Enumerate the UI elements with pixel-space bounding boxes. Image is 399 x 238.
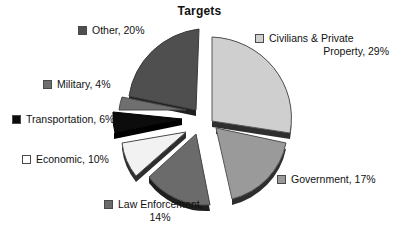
legend-swatch-law-enforcement xyxy=(104,200,113,209)
slice-government[interactable] xyxy=(216,128,286,199)
legend-text-law-line1: Law Enforcement, xyxy=(118,198,203,210)
legend-swatch-government xyxy=(277,175,286,184)
legend-label-law-enforcement[interactable]: Law Enforcement, 14% xyxy=(104,198,224,223)
chart-page: Targets xyxy=(0,0,399,238)
legend-swatch-other xyxy=(78,26,87,35)
legend-text-transportation: Transportation, 6% xyxy=(26,113,114,125)
legend-text-civilians-line2: Property, 29% xyxy=(255,45,389,58)
legend-text-civilians-line1: Civilians & Private xyxy=(269,32,354,44)
slice-other[interactable] xyxy=(129,29,199,110)
legend-text-military: Military, 4% xyxy=(57,78,110,90)
legend-label-military[interactable]: Military, 4% xyxy=(43,78,110,91)
legend-swatch-civilians xyxy=(255,34,264,43)
legend-text-law-line2: 14% xyxy=(104,211,216,224)
legend-swatch-economic xyxy=(22,155,31,164)
legend-text-other: Other, 20% xyxy=(92,24,145,36)
legend-swatch-transportation xyxy=(12,115,21,124)
legend-label-civilians[interactable]: Civilians & Private Property, 29% xyxy=(255,32,397,57)
legend-swatch-military xyxy=(43,80,52,89)
legend-text-government: Government, 17% xyxy=(291,173,376,185)
legend-label-economic[interactable]: Economic, 10% xyxy=(22,153,109,166)
legend-label-other[interactable]: Other, 20% xyxy=(78,24,145,37)
legend-text-economic: Economic, 10% xyxy=(36,153,109,165)
legend-label-transportation[interactable]: Transportation, 6% xyxy=(12,113,114,126)
legend-label-government[interactable]: Government, 17% xyxy=(277,173,376,186)
